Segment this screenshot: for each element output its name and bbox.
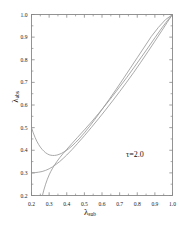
y-axis-label-subscript: abs bbox=[14, 91, 20, 98]
x-axis-label-subscript: sub bbox=[88, 211, 96, 217]
x-axis-tick-label: 0.2 bbox=[28, 201, 35, 207]
y-axis-tick-label: 0.5 bbox=[21, 125, 28, 131]
x-axis-tick-label: 0.9 bbox=[151, 201, 158, 207]
plot-area: 0.20.30.40.50.60.70.80.91.00.20.30.40.50… bbox=[0, 0, 183, 227]
y-axis-label-symbol: λ bbox=[10, 98, 20, 102]
x-axis-tick-label: 0.6 bbox=[99, 201, 106, 207]
y-axis-label: λabs bbox=[11, 77, 21, 117]
y-axis-tick-label: 0.6 bbox=[21, 102, 28, 108]
data-curve bbox=[32, 15, 173, 156]
tau-annotation: τ=2.0 bbox=[126, 150, 144, 159]
y-axis-tick-label: 0.2 bbox=[21, 193, 28, 199]
data-curve bbox=[42, 15, 172, 196]
curves-layer bbox=[32, 15, 173, 196]
y-axis-tick-label: 1.0 bbox=[21, 12, 28, 18]
x-axis-label: λsub bbox=[60, 208, 120, 218]
x-axis-tick-label: 0.8 bbox=[134, 201, 141, 207]
figure-container: 0.20.30.40.50.60.70.80.91.00.20.30.40.50… bbox=[0, 0, 183, 227]
y-axis-tick-label: 0.3 bbox=[21, 170, 28, 176]
y-axis-tick-label: 0.9 bbox=[21, 34, 28, 40]
x-axis-tick-label: 0.7 bbox=[116, 201, 123, 207]
chart-svg: 0.20.30.40.50.60.70.80.91.00.20.30.40.50… bbox=[0, 0, 183, 227]
y-axis-tick-label: 0.7 bbox=[21, 79, 28, 85]
x-axis-tick-label: 0.5 bbox=[81, 201, 88, 207]
y-axis-tick-label: 0.8 bbox=[21, 57, 28, 63]
x-axis-tick-label: 0.3 bbox=[46, 201, 53, 207]
x-axis-tick-label: 1.0 bbox=[169, 201, 176, 207]
y-axis-tick-label: 0.4 bbox=[21, 147, 28, 153]
data-curve bbox=[32, 15, 173, 173]
x-axis-tick-label: 0.4 bbox=[63, 201, 70, 207]
